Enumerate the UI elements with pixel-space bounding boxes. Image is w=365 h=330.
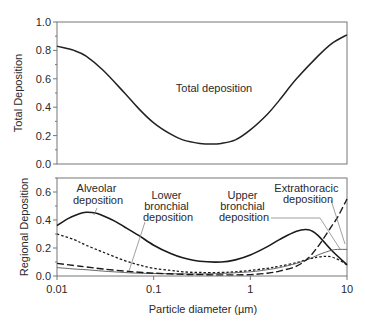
y-tick-label: 0.0 xyxy=(36,270,51,282)
alveolar-annotation: Alveolar deposition xyxy=(73,182,123,206)
bottom-y-axis-label: Regional Deposition xyxy=(18,178,30,276)
y-tick-label: 0.8 xyxy=(36,44,51,56)
lower-bronchial-leader xyxy=(129,222,145,271)
upper-bronchial-leader xyxy=(271,218,340,249)
x-tick-label: 0.1 xyxy=(146,283,161,295)
bottom-x-axis: 0.010.1110 xyxy=(46,276,353,295)
y-tick-label: 0.2 xyxy=(36,242,51,254)
y-tick-label: 0.6 xyxy=(36,186,51,198)
lower-bronchial-annotation: Lower bronchial deposition xyxy=(143,189,193,223)
regional-curves xyxy=(57,199,347,275)
y-tick-label: 0.4 xyxy=(36,101,51,113)
bottom-y-axis: 0.00.20.40.6 xyxy=(36,178,57,282)
y-tick-label: 0.4 xyxy=(36,214,51,226)
extrathoracic-curve xyxy=(57,199,347,275)
alveolar-curve xyxy=(57,212,347,265)
extrathoracic-leader xyxy=(331,200,345,244)
x-tick-label: 0.01 xyxy=(46,283,67,295)
deposition-chart: 0.00.20.40.60.81.0 Total Deposition Tota… xyxy=(0,0,365,330)
x-tick-label: 1 xyxy=(247,283,253,295)
y-tick-label: 0.6 xyxy=(36,73,51,85)
y-tick-label: 1.0 xyxy=(36,16,51,28)
top-panel: 0.00.20.40.60.81.0 Total Deposition Tota… xyxy=(12,16,347,170)
lower-bronchial-curve xyxy=(57,234,347,273)
top-y-axis-label: Total Deposition xyxy=(12,54,24,132)
top-y-axis: 0.00.20.40.60.81.0 xyxy=(36,16,57,170)
y-tick-label: 0.0 xyxy=(36,158,51,170)
upper-bronchial-annotation: Upper bronchial deposition xyxy=(219,189,269,223)
extrathoracic-annotation: Extrathoracic deposition xyxy=(274,182,341,205)
x-axis-label: Particle diameter (µm) xyxy=(149,303,257,315)
total-deposition-annotation: Total deposition xyxy=(176,82,252,94)
bottom-panel: 0.00.20.40.6 0.010.1110 Regional Deposit… xyxy=(18,178,353,315)
x-tick-label: 10 xyxy=(341,283,353,295)
y-tick-label: 0.2 xyxy=(36,130,51,142)
